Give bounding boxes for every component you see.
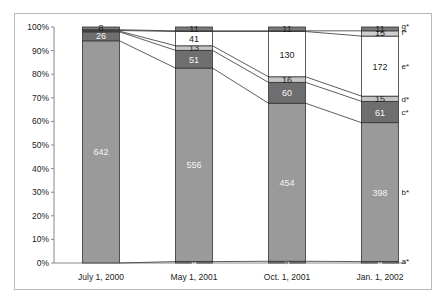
connector-line xyxy=(120,31,176,46)
series-label-b: b* xyxy=(402,188,410,197)
y-tick-label: 20% xyxy=(32,211,49,221)
segment-value-label: 60 xyxy=(282,88,292,98)
connector-line xyxy=(120,32,176,50)
y-tick-label: 70% xyxy=(32,93,49,103)
series-label-e: e* xyxy=(402,62,410,71)
x-tick-label: May 1, 2001 xyxy=(171,272,218,282)
x-tick-label: Jan. 1, 2002 xyxy=(357,272,404,282)
segment-value-label: 51 xyxy=(189,55,199,65)
segment-value-label: 11 xyxy=(189,24,198,34)
y-tick-label: 60% xyxy=(32,116,49,126)
segment-value-label: 11 xyxy=(282,24,291,34)
series-label-c: c* xyxy=(402,108,409,117)
connector-line xyxy=(306,32,362,37)
y-tick-label: 80% xyxy=(32,69,49,79)
segment-value-label: 130 xyxy=(279,50,294,60)
y-tick-label: 100% xyxy=(27,22,49,32)
series-label-a: a* xyxy=(402,257,410,266)
x-tick-label: Oct. 1, 2001 xyxy=(264,272,311,282)
y-tick-label: 50% xyxy=(32,140,49,150)
series-label-d: d* xyxy=(402,95,410,104)
segment-value-label: 172 xyxy=(372,62,387,72)
segment-value-label: 398 xyxy=(372,188,387,198)
connector-line xyxy=(306,103,362,122)
connector-line xyxy=(213,50,269,82)
y-tick-label: 0% xyxy=(37,258,50,268)
y-tick-label: 90% xyxy=(32,46,49,56)
connector-line xyxy=(306,82,362,101)
segment-value-label: 556 xyxy=(186,160,201,170)
connector-line xyxy=(213,68,269,103)
y-tick-label: 10% xyxy=(32,234,49,244)
connector-line xyxy=(120,41,176,68)
segment-value-label: 642 xyxy=(93,147,108,157)
y-tick-label: 30% xyxy=(32,187,49,197)
y-tick-label: 40% xyxy=(32,164,49,174)
segment-value-label: 61 xyxy=(375,108,385,118)
segment-value-label: 454 xyxy=(279,178,294,188)
x-tick-label: July 1, 2000 xyxy=(78,272,124,282)
connector-line xyxy=(213,46,269,77)
segment-value-label: 8 xyxy=(98,23,103,33)
stacked-percent-bar-chart: 0%10%20%30%40%50%60%70%80%90%100%642268J… xyxy=(0,0,445,303)
segment-value-label: 11 xyxy=(375,24,384,34)
segment-value-label: 41 xyxy=(189,34,199,44)
connector-line xyxy=(306,77,362,96)
series-label-g: g* xyxy=(402,22,410,31)
